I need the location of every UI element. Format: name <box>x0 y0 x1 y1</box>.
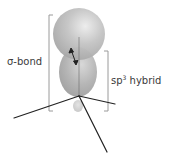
sigma-bond-label: σ-bond <box>7 57 42 67</box>
sigma-bond-diagram: σ-bond sp3 hybrid <box>0 0 172 161</box>
sp3-prefix-text: sp <box>111 75 123 86</box>
bond-line-left <box>14 96 79 118</box>
bond-line-down <box>79 96 107 152</box>
sp3-suffix-text: hybrid <box>126 75 161 86</box>
bond-line-right <box>79 96 115 104</box>
bond-lines <box>14 96 115 152</box>
sigma-bond-bracket <box>49 15 53 111</box>
sigma-bond-text: σ-bond <box>7 56 42 67</box>
sp3-hybrid-label: sp3 hybrid <box>111 75 161 86</box>
